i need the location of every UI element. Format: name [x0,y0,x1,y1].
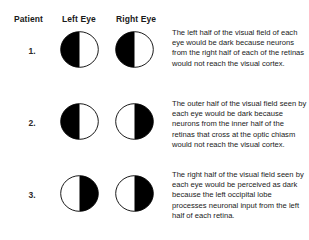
column-header-patient: Patient [14,14,43,24]
visual-field-circle-icon [115,103,154,140]
dark-half-shading [135,103,155,140]
left-eye-field-row-2 [60,103,99,140]
patient-description-row-2: The outer half of the visual field seen … [172,99,308,150]
left-eye-field-row-1 [60,31,99,68]
column-header-right-eye: Right Eye [116,14,156,24]
visual-field-circle-icon [60,31,99,68]
visual-field-circle-icon [60,103,99,140]
dark-half-shading [60,31,80,68]
patient-description-row-1: The left half of the visual field of eac… [172,28,308,69]
visual-field-circle-icon [115,31,154,68]
patient-number-label: 3. [20,190,44,200]
patient-number-label: 2. [20,118,44,128]
right-eye-field-row-2 [115,103,154,140]
left-eye-field-row-3 [60,175,99,212]
right-eye-field-row-3 [115,175,154,212]
dark-half-shading [60,103,80,140]
patient-description-row-3: The right half of the visual field seen … [172,170,308,221]
dark-half-shading [135,175,155,212]
dark-half-shading [80,175,100,212]
column-header-left-eye: Left Eye [62,14,96,24]
visual-field-circle-icon [115,175,154,212]
patient-number-label: 1. [20,46,44,56]
visual-field-diagram: Patient Left Eye Right Eye 1. The left h… [0,0,309,240]
right-eye-field-row-1 [115,31,154,68]
dark-half-shading [115,31,135,68]
visual-field-circle-icon [60,175,99,212]
